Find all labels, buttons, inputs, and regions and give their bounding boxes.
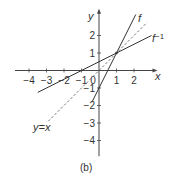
series-label-f-inverse: f−1 xyxy=(152,32,165,44)
x-tick-label: 2 xyxy=(131,75,137,86)
y-tick-label: −4 xyxy=(84,135,96,146)
x-tick-label: −4 xyxy=(23,75,35,86)
y-tick-label: 1 xyxy=(89,48,95,59)
series-label-identity: y=x xyxy=(32,121,51,133)
figure-caption: (b) xyxy=(80,162,92,173)
intersection-point xyxy=(115,52,118,55)
x-axis-label: x xyxy=(154,70,161,82)
chart: −4−3−2−1012−4−3−2−112 x y f f−1 y=x (b) xyxy=(0,0,177,184)
y-axis-arrow xyxy=(97,9,101,14)
y-axis-label: y xyxy=(87,10,95,22)
y-tick-label: −2 xyxy=(84,100,96,111)
f-inverse-sup: −1 xyxy=(155,32,165,41)
y-tick-label: 2 xyxy=(89,30,95,41)
series-label-f: f xyxy=(138,12,142,24)
x-tick-label: −3 xyxy=(41,75,53,86)
x-tick-label: −2 xyxy=(58,75,70,86)
y-tick-label: −1 xyxy=(84,83,96,94)
x-tick-label: 1 xyxy=(114,75,120,86)
series-line-identity xyxy=(48,22,147,121)
y-tick-label: −3 xyxy=(84,118,96,129)
